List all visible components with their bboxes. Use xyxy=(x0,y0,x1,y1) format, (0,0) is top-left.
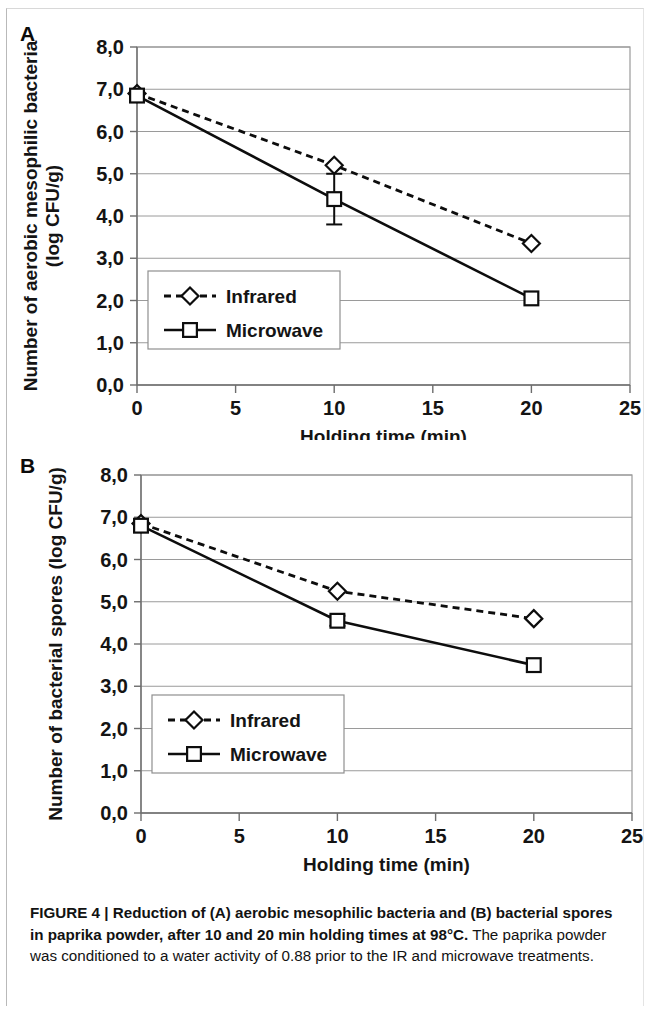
x-tick-label: 15 xyxy=(422,397,444,419)
figure-caption: FIGURE 4 | Reduction of (A) aerobic meso… xyxy=(30,902,626,967)
panel-b-plot: 0,01,02,03,04,05,06,07,08,00510152025Hol… xyxy=(0,440,650,880)
x-tick-label: 20 xyxy=(520,397,542,419)
y-tick-label: 2,0 xyxy=(96,290,124,312)
y-tick-label: 4,0 xyxy=(96,205,124,227)
legend-label-infrared: Infrared xyxy=(230,710,301,731)
legend-label-microwave: Microwave xyxy=(230,744,327,765)
y-tick-label: 3,0 xyxy=(96,247,124,269)
x-axis-title: Holding time (min) xyxy=(303,854,470,875)
figure-page: A 0,01,02,03,04,05,06,07,08,00510152025H… xyxy=(0,0,650,1014)
y-tick-label: 8,0 xyxy=(96,36,124,58)
x-tick-label: 5 xyxy=(234,825,245,847)
data-point-microwave-marker-square xyxy=(525,292,539,306)
legend-marker-microwave-marker-square xyxy=(183,323,197,337)
legend-label-infrared: Infrared xyxy=(226,286,297,307)
y-axis-title: Number of bacterial spores (log CFU/g) xyxy=(45,467,66,821)
data-point-microwave-marker-square xyxy=(134,519,148,533)
x-tick-label: 0 xyxy=(135,825,146,847)
y-tick-label: 5,0 xyxy=(100,591,128,613)
legend-label-microwave: Microwave xyxy=(226,320,323,341)
x-tick-label: 20 xyxy=(523,825,545,847)
data-point-microwave-marker-square xyxy=(130,89,144,103)
y-tick-label: 4,0 xyxy=(100,633,128,655)
data-point-microwave-marker-square xyxy=(331,614,345,628)
y-axis-title: Number of aerobic mesophilic bacteria xyxy=(20,40,41,391)
y-tick-label: 1,0 xyxy=(100,760,128,782)
y-tick-label: 0,0 xyxy=(96,374,124,396)
y-tick-label: 3,0 xyxy=(100,675,128,697)
y-axis-title: (log CFU/g) xyxy=(42,165,63,267)
panel-a-plot: 0,01,02,03,04,05,06,07,08,00510152025Hol… xyxy=(0,0,650,440)
legend-marker-microwave-marker-square xyxy=(187,747,201,761)
y-tick-label: 7,0 xyxy=(100,506,128,528)
x-tick-label: 10 xyxy=(326,825,348,847)
legend-item-microwave[interactable]: Microwave xyxy=(164,320,323,341)
x-tick-label: 15 xyxy=(424,825,446,847)
y-tick-label: 7,0 xyxy=(96,78,124,100)
x-tick-label: 5 xyxy=(230,397,241,419)
panel-b-label: B xyxy=(20,454,35,478)
x-tick-label: 25 xyxy=(619,397,641,419)
y-tick-label: 2,0 xyxy=(100,718,128,740)
panel-a-label: A xyxy=(20,22,35,46)
x-axis-title: Holding time (min) xyxy=(300,426,467,440)
legend-item-microwave[interactable]: Microwave xyxy=(168,744,327,765)
y-tick-label: 6,0 xyxy=(100,549,128,571)
y-tick-label: 1,0 xyxy=(96,332,124,354)
data-point-microwave-marker-square xyxy=(327,192,341,206)
y-tick-label: 5,0 xyxy=(96,163,124,185)
x-tick-label: 25 xyxy=(621,825,643,847)
y-tick-label: 0,0 xyxy=(100,802,128,824)
chart-panel-b: B 0,01,02,03,04,05,06,07,08,00510152025H… xyxy=(0,440,650,880)
x-tick-label: 0 xyxy=(131,397,142,419)
y-tick-label: 8,0 xyxy=(100,464,128,486)
y-tick-label: 6,0 xyxy=(96,121,124,143)
data-point-microwave-marker-square xyxy=(527,658,541,672)
chart-panel-a: A 0,01,02,03,04,05,06,07,08,00510152025H… xyxy=(0,0,650,440)
x-tick-label: 10 xyxy=(323,397,345,419)
